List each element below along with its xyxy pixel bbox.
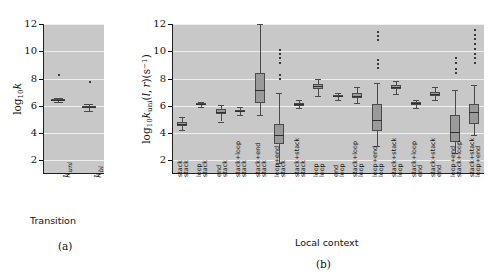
outlier-point — [474, 43, 476, 45]
outlier-point — [279, 53, 281, 55]
whisker-cap-lower — [471, 135, 477, 136]
y-tick-mark — [39, 133, 43, 134]
median-line — [411, 103, 421, 104]
whisker-cap-upper — [471, 85, 477, 86]
outlier-point — [377, 67, 379, 69]
panel-b-x-tick-label: stack+stackend — [430, 138, 443, 177]
gridline — [172, 24, 484, 25]
panel-a: 24681012log10kkunikbiTransition(a) — [0, 0, 120, 279]
y-tick-mark — [168, 51, 172, 52]
whisker-cap-upper — [335, 93, 341, 94]
panel-a-x-tick-label: kbi — [93, 166, 106, 178]
panel-a-y-axis-label: log10k — [11, 69, 25, 129]
whisker-cap-upper — [296, 100, 302, 101]
outlier-point — [279, 57, 281, 59]
median-line — [177, 124, 187, 125]
panel-b-x-axis-label: Local context — [295, 237, 358, 248]
median-line — [255, 90, 265, 91]
outlier-point — [455, 72, 457, 74]
outlier-point — [279, 62, 281, 64]
median-line — [313, 86, 323, 87]
whisker-cap-lower — [54, 102, 63, 103]
y-tick-label: 12 — [17, 19, 37, 29]
y-tick-mark — [168, 106, 172, 107]
gridline — [43, 79, 104, 80]
whisker-cap-upper — [413, 100, 419, 101]
panel-b-x-tick-label: loop+endloop — [372, 146, 385, 177]
panel-b-x-tick-label: endstack — [216, 160, 229, 177]
whisker-cap-upper — [374, 83, 380, 84]
box-iqr — [450, 115, 460, 142]
whisker-cap-lower — [218, 122, 224, 123]
panel-b-x-tick-label: stack+loopstack — [235, 141, 248, 177]
panel-b-y-axis-label: log10kuni(l, r)(s−1) — [140, 24, 154, 174]
panel-b: 24681012log10kuni(l, r)(s−1)stackstacklo… — [120, 0, 488, 279]
whisker-cap-upper — [218, 105, 224, 106]
panel-b-x-tick-label: stack+stackloop — [391, 138, 404, 177]
box-iqr — [372, 104, 382, 131]
gridline — [43, 51, 104, 52]
median-line — [469, 112, 479, 113]
panel-a-x-axis-label: Transition — [30, 215, 76, 226]
whisker-cap-upper — [257, 24, 263, 25]
outlier-point — [455, 62, 457, 64]
panel-b-x-tick-label: stackstack — [177, 160, 190, 177]
whisker-cap-lower — [315, 96, 321, 97]
median-line — [372, 120, 382, 121]
y-tick-mark — [39, 24, 43, 25]
whisker-cap-upper — [354, 87, 360, 88]
y-tick-mark — [39, 79, 43, 80]
median-line — [430, 94, 440, 95]
whisker-cap-upper — [276, 93, 282, 94]
median-line — [333, 96, 343, 97]
whisker-cap-lower — [198, 107, 204, 108]
panel-b-x-tick-label: endloop — [333, 163, 346, 177]
whisker-cap-lower — [413, 108, 419, 109]
panel-b-x-tick-label: loopstack — [196, 160, 209, 177]
median-line — [196, 104, 206, 105]
panel-b-caption: (b) — [316, 258, 331, 270]
whisker-cap-lower — [296, 108, 302, 109]
whisker-cap-lower — [335, 100, 341, 101]
gridline — [172, 79, 484, 80]
panel-b-x-tick-label: stack+stackloop+end — [469, 138, 482, 177]
panel-b-x-tick-label: stack+endstack — [255, 143, 268, 177]
panel-b-x-tick-label: loop+endstack — [274, 146, 287, 177]
outlier-point — [474, 29, 476, 31]
panel-b-x-tick-label: stack+looploop — [352, 141, 365, 177]
outlier-point — [377, 31, 379, 33]
outlier-point — [279, 78, 281, 80]
outlier-point — [89, 81, 91, 83]
gridline — [172, 106, 484, 107]
whisker-cap-upper — [179, 117, 185, 118]
outlier-point — [377, 59, 379, 61]
y-tick-mark — [168, 24, 172, 25]
outlier-point — [474, 34, 476, 36]
y-tick-mark — [168, 79, 172, 80]
median-line — [51, 100, 65, 101]
y-tick-mark — [39, 106, 43, 107]
figure-container: 24681012log10kkunikbiTransition(a) 24681… — [0, 0, 488, 279]
whisker-cap-lower — [354, 103, 360, 104]
whisker-cap-lower — [432, 100, 438, 101]
box-iqr — [469, 104, 479, 124]
gridline — [43, 24, 104, 25]
outlier-point — [474, 62, 476, 64]
outlier-point — [279, 49, 281, 51]
whisker-cap-lower — [179, 130, 185, 131]
y-tick-mark — [168, 133, 172, 134]
outlier-point — [377, 39, 379, 41]
whisker-cap-lower — [257, 115, 263, 116]
outlier-point — [279, 74, 281, 76]
median-line — [82, 107, 96, 108]
outlier-point — [455, 57, 457, 59]
outlier-point — [474, 38, 476, 40]
gridline — [43, 133, 104, 134]
whisker-cap-lower — [84, 111, 93, 112]
whisker-cap-upper — [432, 87, 438, 88]
y-tick-mark — [39, 51, 43, 52]
panel-b-x-tick-label: stack+loopend — [411, 141, 424, 177]
outlier-point — [455, 68, 457, 70]
y-tick-mark — [168, 160, 172, 161]
y-tick-label: 10 — [17, 46, 37, 56]
